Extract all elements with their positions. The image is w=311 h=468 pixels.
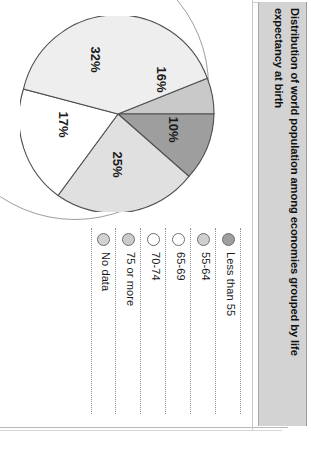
legend-label-less-than-55: Less than 55 [225, 252, 237, 372]
legend-item-70-74[interactable]: 70-74 [143, 228, 167, 424]
page-title: Distribution of world population among e… [271, 8, 302, 418]
legend-label-70-74: 70-74 [150, 252, 162, 372]
legend-marker-icon-55-64 [197, 233, 210, 246]
pie-slice-label-25: 25% [110, 151, 125, 177]
legend-label-65-69: 65-69 [175, 252, 187, 372]
legend-separator [91, 228, 92, 414]
legend-label-no-data: No data [100, 252, 112, 372]
pie-chart-area: 16% 10% 25% 17% 32% [4, 6, 252, 224]
legend-separator [115, 228, 116, 414]
pie-slice-label-32: 32% [88, 46, 103, 72]
legend-item-75-or-more[interactable]: 75 or more [118, 228, 142, 424]
legend-marker-icon-65-69 [172, 233, 185, 246]
pie-slice-label-16: 16% [154, 66, 169, 92]
pie-slice-label-10: 10% [166, 116, 181, 142]
chart-title-band: Distribution of world population among e… [258, 2, 307, 426]
legend-separator [215, 228, 216, 414]
legend-separator [165, 228, 166, 414]
legend-separator [140, 228, 141, 414]
legend-marker-icon-75-or-more [122, 233, 135, 246]
pie-chart: 16% 10% 25% 17% 32% [20, 16, 216, 212]
chart-legend: Less than 55 55-64 65-69 70-74 75 or mor… [14, 228, 254, 424]
page-edge-line [0, 427, 288, 428]
legend-separator [190, 228, 191, 414]
legend-separator [240, 228, 241, 414]
legend-label-55-64: 55-64 [200, 252, 212, 372]
legend-item-less-than-55[interactable]: Less than 55 [218, 228, 242, 424]
legend-marker-icon-70-74 [147, 233, 160, 246]
legend-item-no-data[interactable]: No data [93, 228, 117, 424]
legend-item-55-64[interactable]: 55-64 [193, 228, 217, 424]
legend-marker-icon-less-than-55 [222, 233, 235, 246]
page-edge-line-secondary [0, 430, 282, 431]
pie-slice-label-17: 17% [56, 111, 71, 137]
chart-title-band-inner: Distribution of world population among e… [259, 2, 308, 426]
legend-label-75-or-more: 75 or more [125, 252, 137, 372]
pie-chart-svg [20, 16, 216, 212]
scanned-chart-page: Distribution of world population among e… [0, 0, 311, 468]
legend-item-65-69[interactable]: 65-69 [168, 228, 192, 424]
legend-marker-icon-no-data [97, 233, 110, 246]
